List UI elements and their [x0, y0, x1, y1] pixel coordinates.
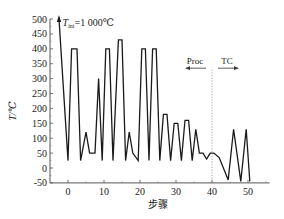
x-tick-label: 40	[207, 186, 217, 197]
tc-label: TC	[221, 56, 233, 66]
y-tick-label: 50	[37, 148, 47, 159]
y-tick-label: 300	[32, 73, 47, 84]
y-tick-label: 150	[32, 118, 47, 129]
y-tick-label: 200	[32, 103, 47, 114]
chart: -50050100150200250300350400450500 010203…	[0, 0, 284, 219]
y-tick-label: 450	[32, 28, 47, 39]
proc-label: Proc	[187, 56, 204, 66]
x-tick-label: 10	[99, 186, 109, 197]
y-tick-label: 400	[32, 43, 47, 54]
x-tick-label: 0	[66, 186, 71, 197]
y-axis-label: T/℃	[7, 101, 18, 121]
initial-temperature-label: Tini=1 000℃	[63, 17, 114, 29]
proc-arrow-head	[185, 66, 190, 70]
y-tick-label: 0	[42, 163, 47, 174]
initial-temperature-value: =1 000℃	[75, 17, 114, 28]
series-group	[57, 15, 250, 181]
y-tick-label: 500	[32, 14, 47, 25]
initial-temperature-arrowhead	[57, 15, 61, 22]
y-tick-label: 250	[32, 88, 47, 99]
y-tick-label: 350	[32, 58, 47, 69]
x-tick-label: 20	[135, 186, 145, 197]
x-tick-label: 30	[171, 186, 181, 197]
tc-arrow-head	[234, 66, 239, 70]
x-tick-label: 50	[243, 186, 253, 197]
series-line-temperature	[59, 19, 250, 181]
y-tick-label: 100	[32, 133, 47, 144]
x-axis-label: 步骤	[148, 199, 168, 210]
y-tick-label: -50	[34, 177, 47, 188]
